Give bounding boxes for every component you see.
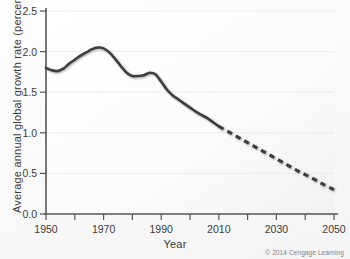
y-tick-label: 1.5 [22,86,37,98]
y-axis-tick-labels: 2.5 2.0 1.5 1.0 0.5 0.0 [22,5,37,220]
y-tick-label: 0.5 [22,167,37,179]
plot-area-background [46,11,334,214]
x-tick-label: 2010 [207,223,231,235]
x-tick-label: 1970 [92,223,116,235]
x-tick-label: 2030 [265,223,289,235]
x-axis-ticks [46,214,334,220]
copyright-notice: © 2014 Cengage Learning [265,249,344,256]
y-tick-label: 0.0 [22,208,37,220]
y-axis-title: Average annual global growth rate (perce… [11,23,23,213]
y-tick-label: 1.0 [22,127,37,139]
x-axis-tick-labels: 1950 1970 1990 2010 2030 2050 [34,223,346,235]
y-tick-label: 2.0 [22,46,37,58]
chart-figure: 2.5 2.0 1.5 1.0 0.5 0.0 1950 1970 1990 [0,0,350,259]
x-tick-label: 1950 [34,223,58,235]
x-tick-label: 1990 [150,223,174,235]
x-tick-label: 2050 [322,223,346,235]
y-axis-ticks [40,11,46,214]
y-tick-label: 2.5 [22,5,37,17]
growth-rate-line-chart: 2.5 2.0 1.5 1.0 0.5 0.0 1950 1970 1990 [0,0,350,259]
